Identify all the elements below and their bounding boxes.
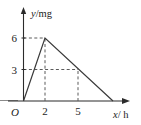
origin-label: O bbox=[11, 106, 19, 118]
line-chart-plot: 6 3 2 5 O y/mg x/ h bbox=[0, 0, 141, 125]
x-axis-label: x/ h bbox=[112, 109, 129, 120]
y-axis-label-unit: /mg bbox=[36, 8, 53, 19]
y-axis-arrowhead bbox=[21, 7, 26, 14]
x-axis-label-unit: / h bbox=[118, 109, 130, 120]
x-tick-label-2: 2 bbox=[42, 105, 48, 117]
chart-figure: 6 3 2 5 O y/mg x/ h bbox=[0, 0, 141, 125]
y-tick-label-6: 6 bbox=[12, 32, 18, 44]
x-tick-label-5: 5 bbox=[75, 105, 81, 117]
y-tick-label-3: 3 bbox=[12, 64, 18, 76]
x-axis-arrowhead bbox=[122, 98, 130, 104]
y-axis-label: y/mg bbox=[30, 8, 53, 19]
